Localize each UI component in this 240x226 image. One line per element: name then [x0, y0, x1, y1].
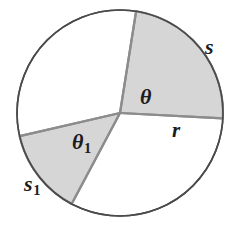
circle-sector-figure: s r θ θ1 s1 — [0, 0, 240, 226]
label-radius-r-text: r — [172, 118, 180, 142]
label-angle-theta-1-subscript: 1 — [84, 140, 91, 156]
label-arc-length-s-1-base: s — [24, 171, 33, 196]
shaded-sector-theta — [120, 11, 223, 118]
label-arc-length-s-text: s — [205, 34, 214, 59]
label-angle-theta-1: θ1 — [72, 131, 91, 156]
label-arc-length-s: s — [205, 36, 214, 58]
label-arc-length-s-1: s1 — [24, 173, 40, 198]
label-angle-theta-text: θ — [140, 84, 151, 109]
label-arc-length-s-1-subscript: 1 — [33, 182, 40, 198]
label-radius-r: r — [172, 120, 180, 141]
label-angle-theta: θ — [140, 86, 151, 108]
label-angle-theta-1-base: θ — [72, 129, 83, 154]
